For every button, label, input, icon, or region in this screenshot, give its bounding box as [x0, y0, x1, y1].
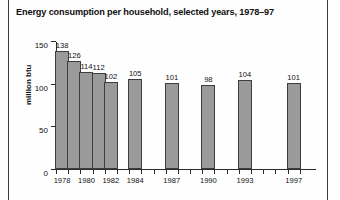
bar [165, 83, 179, 169]
x-axis-label: 1982 [102, 177, 119, 185]
x-axis-tick [56, 170, 57, 174]
bar-value-label: 126 [68, 52, 81, 60]
x-axis-tick [117, 170, 118, 174]
bar [128, 79, 142, 169]
x-axis-tick [202, 170, 203, 174]
bar [104, 82, 118, 169]
bar-value-label: 114 [80, 63, 92, 71]
x-axis-label: 1987 [163, 177, 180, 185]
bar [287, 83, 301, 169]
x-axis-tick [288, 170, 289, 174]
x-axis-tick [300, 170, 301, 174]
bar-value-label: 138 [56, 42, 69, 50]
x-axis-tick [129, 170, 130, 174]
x-axis-label: 1978 [54, 177, 71, 185]
bar-value-label: 98 [204, 76, 212, 84]
x-axis-tick [166, 170, 167, 174]
x-axis-label: 1997 [285, 177, 302, 185]
bar-value-label: 102 [105, 73, 118, 81]
x-axis-tick [68, 170, 69, 174]
x-axis-tick [227, 170, 228, 174]
x-axis-tick [214, 170, 215, 174]
left-border-rule [8, 0, 9, 200]
x-axis-tick [141, 170, 142, 174]
x-axis-tick [275, 170, 276, 174]
plot-area: 0501001501381261141121021051019810410119… [56, 42, 312, 170]
right-border-rule [327, 0, 328, 200]
x-axis-tick [93, 170, 94, 174]
x-axis-tick [251, 170, 252, 174]
x-axis-tick [263, 170, 264, 174]
x-axis-tick [190, 170, 191, 174]
bar [201, 85, 215, 169]
x-axis-label: 1984 [127, 177, 144, 185]
bar [238, 80, 252, 169]
bar-value-label: 101 [287, 74, 300, 82]
bar-value-label: 105 [129, 70, 142, 78]
x-axis-tick [80, 170, 81, 174]
bar-value-label: 101 [165, 74, 178, 82]
chart-figure: Energy consumption per household, select… [0, 0, 340, 200]
x-axis-tick [105, 170, 106, 174]
x-axis-tick [154, 170, 155, 174]
y-axis-title: million btu [24, 65, 33, 105]
x-axis-tick [239, 170, 240, 174]
bar-value-label: 104 [239, 71, 252, 79]
chart-title: Energy consumption per household, select… [16, 7, 274, 17]
x-axis-label: 1980 [78, 177, 95, 185]
x-axis-tick [178, 170, 179, 174]
bar-value-label: 112 [93, 64, 105, 72]
x-axis-line [56, 169, 316, 170]
x-axis-label: 1990 [200, 177, 217, 185]
x-axis-label: 1993 [236, 177, 253, 185]
